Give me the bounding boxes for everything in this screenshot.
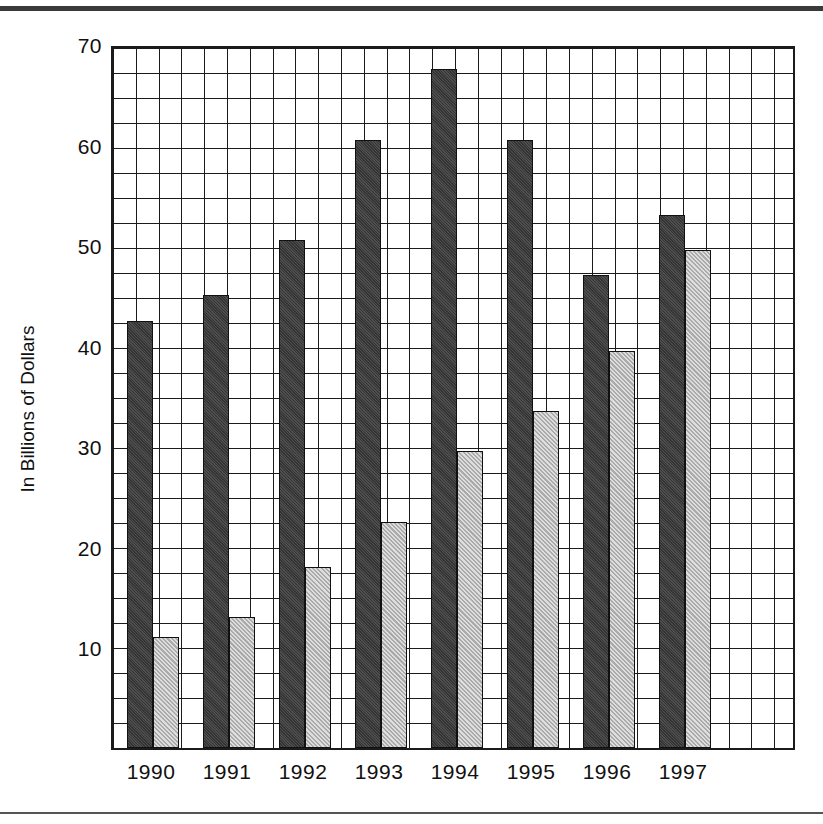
y-axis-tick-label: 10 bbox=[56, 637, 102, 661]
bar-1996-light bbox=[609, 351, 635, 748]
bars-layer bbox=[113, 48, 793, 748]
y-axis-ticks: 10203040506070 bbox=[46, 46, 102, 750]
top-rule bbox=[0, 6, 823, 11]
y-axis-label: In Billions of Dollars bbox=[17, 189, 39, 629]
y-axis-tick-label: 30 bbox=[56, 436, 102, 460]
bar-1992-dark bbox=[279, 240, 305, 748]
y-axis-tick-label: 20 bbox=[56, 537, 102, 561]
y-axis-tick-label: 40 bbox=[56, 336, 102, 360]
bar-1991-dark bbox=[203, 295, 229, 748]
bar-1997-light bbox=[685, 250, 711, 748]
y-axis-tick-label: 50 bbox=[56, 235, 102, 259]
bar-1990-dark bbox=[127, 321, 153, 748]
bar-1995-dark bbox=[507, 140, 533, 748]
bar-1993-dark bbox=[355, 140, 381, 748]
bar-1994-dark bbox=[431, 69, 457, 748]
x-axis-ticks: 19901991199219931994199519961997 bbox=[111, 760, 795, 794]
plot-area bbox=[111, 46, 795, 750]
bar-1994-light bbox=[457, 451, 483, 748]
bar-1997-dark bbox=[659, 215, 685, 748]
bottom-rule bbox=[0, 812, 823, 814]
bar-1992-light bbox=[305, 567, 331, 748]
x-axis-tick-label: 1997 bbox=[638, 760, 728, 784]
bar-1993-light bbox=[381, 522, 407, 748]
bar-1995-light bbox=[533, 411, 559, 748]
y-axis-tick-label: 70 bbox=[56, 34, 102, 58]
bar-1990-light bbox=[153, 637, 179, 748]
chart-figure: In Billions of Dollars 10203040506070 19… bbox=[0, 0, 823, 824]
bar-1991-light bbox=[229, 617, 255, 748]
y-axis-tick-label: 60 bbox=[56, 135, 102, 159]
bar-1996-dark bbox=[583, 275, 609, 748]
